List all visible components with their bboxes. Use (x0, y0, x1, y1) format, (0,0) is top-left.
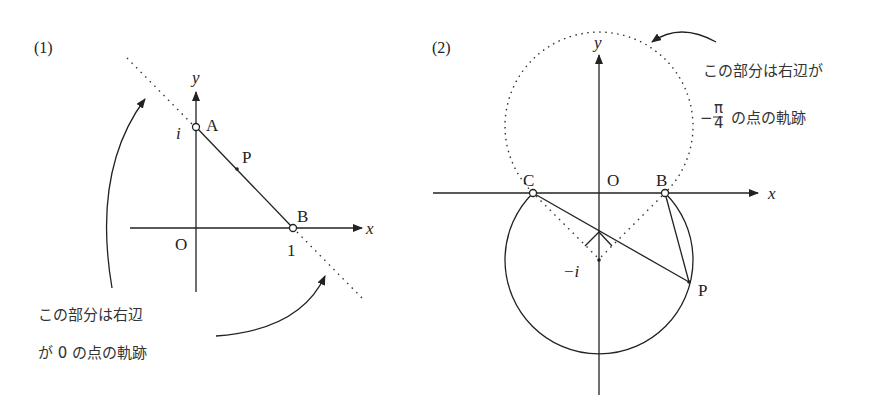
dotted-radius-c (536, 196, 599, 259)
point-a-label: A (206, 116, 219, 135)
diagram-canvas: (1) x y O A i P B 1 この部分は右辺 が 0 の点の軌跡 (2… (0, 0, 886, 407)
curved-arrow-left (107, 99, 145, 288)
point-p-label-2: P (698, 281, 707, 300)
panel-1: (1) x y O A i P B 1 この部分は右辺 が 0 の点の軌跡 (34, 39, 374, 362)
tick-i-label: i (176, 124, 181, 143)
center-minus-i-marker (597, 258, 601, 262)
point-p-marker-2 (687, 280, 691, 284)
note-2-line-2: − π 4 の点の軌跡 (700, 99, 806, 132)
point-p-label: P (242, 148, 251, 167)
y-axis-label-2: y (592, 33, 602, 52)
point-b-label: B (297, 207, 308, 226)
panel-1-label: (1) (34, 39, 53, 57)
curved-arrow-top (652, 32, 716, 42)
x-axis-label-2: x (767, 184, 776, 203)
segment-cp (533, 193, 689, 282)
note-1-line-2: が 0 の点の軌跡 (38, 344, 147, 362)
curved-arrow-bottom (216, 276, 325, 336)
note-2-four: 4 (714, 114, 724, 132)
panel-2: (2) x y O C B P −i この部分は右辺が − π (432, 32, 823, 395)
y-axis-label: y (190, 68, 200, 87)
segment-ab (196, 127, 293, 228)
origin-label-2: O (607, 171, 619, 190)
origin-label: O (175, 235, 187, 254)
x-axis-label: x (365, 219, 374, 238)
note-2-line-1: この部分は右辺が (703, 62, 823, 80)
point-c-marker (530, 190, 537, 197)
point-a-marker (193, 124, 200, 131)
dotted-line-upper (127, 58, 192, 124)
dotted-radius-b (599, 196, 662, 259)
panel-2-label: (2) (432, 39, 451, 57)
point-b-marker-2 (662, 190, 669, 197)
point-b-label-2: B (656, 171, 667, 190)
point-p-marker (235, 167, 239, 171)
note-1-line-1: この部分は右辺 (38, 306, 143, 324)
dotted-line-lower (297, 232, 362, 298)
point-b-marker (290, 225, 297, 232)
point-c-label: C (523, 171, 534, 190)
note-2-minus: − (700, 109, 713, 127)
tick-1-label: 1 (287, 241, 296, 260)
tick-minus-i-label: −i (563, 262, 579, 281)
note-2-rest: の点の軌跡 (731, 109, 806, 127)
